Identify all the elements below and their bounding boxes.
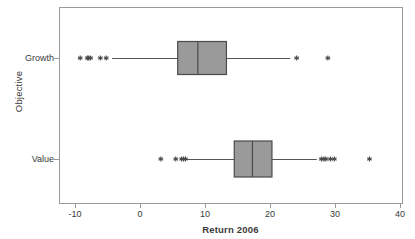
axis-ticks	[54, 59, 401, 209]
x-tick-label-40: 40	[395, 209, 405, 219]
box-series	[78, 42, 372, 178]
x-tick-label-neg10: -10	[68, 209, 81, 219]
outlier-high-3	[328, 156, 333, 161]
outlier-low-4	[98, 55, 103, 60]
boxplot-chart: Objective Growth Value -10 0 10 20 30 40…	[0, 0, 415, 239]
box-growth	[78, 42, 330, 75]
x-tick-label-0: 0	[137, 209, 142, 219]
box-rect	[178, 42, 227, 75]
plot-border	[60, 8, 403, 204]
outlier-high-4	[332, 156, 337, 161]
x-tick-label-20: 20	[265, 209, 275, 219]
outlier-high-1	[326, 55, 331, 60]
x-tick-label-10: 10	[200, 209, 210, 219]
outlier-high-0	[294, 55, 299, 60]
y-tick-label-growth: Growth	[25, 53, 54, 63]
y-axis-title: Objective	[13, 52, 24, 132]
outlier-low-1	[173, 156, 178, 161]
y-tick-label-value: Value	[32, 154, 54, 164]
box-value	[159, 141, 372, 177]
outlier-low-5	[104, 55, 109, 60]
x-axis-title: Return 2006	[59, 224, 402, 235]
outlier-high-5	[367, 156, 372, 161]
outlier-low-0	[159, 156, 164, 161]
plot-frame	[60, 8, 403, 204]
plot-area	[0, 0, 415, 239]
outlier-low-0	[78, 55, 83, 60]
box-rect	[234, 141, 272, 177]
x-tick-label-30: 30	[330, 209, 340, 219]
